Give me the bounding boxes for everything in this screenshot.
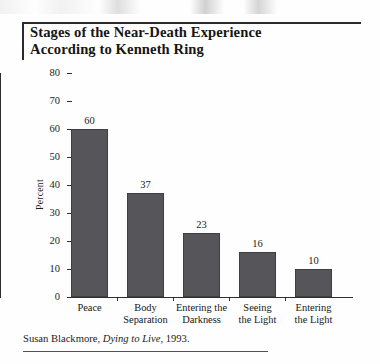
bar [127, 193, 164, 297]
bar-value-label: 10 [295, 255, 332, 266]
bar-value-label: 60 [71, 115, 108, 126]
caption-prefix: Susan Blackmore, [23, 333, 103, 344]
y-axis-label: Percent [34, 179, 45, 210]
bar [183, 233, 220, 297]
x-tick [117, 297, 118, 301]
bar-value-label: 16 [239, 238, 276, 249]
source-caption: Susan Blackmore, Dying to Live, 1993. [23, 333, 190, 344]
title-left-rule [22, 22, 24, 60]
y-axis-line [0, 73, 1, 298]
bar [71, 129, 108, 297]
caption-book-title: Dying to Live [103, 333, 161, 344]
x-axis-line [67, 297, 353, 298]
chart-title: Stages of the Near-Death Experience Acco… [30, 24, 360, 58]
plot-area: 6037231610 [67, 73, 352, 297]
bar [295, 269, 332, 297]
x-tick [173, 297, 174, 301]
y-tick-label-0: 0 [38, 291, 60, 302]
category-label-4: Entering the Light [281, 302, 347, 326]
y-tick-label-10: 10 [38, 263, 60, 274]
chart-figure: Stages of the Near-Death Experience Acco… [0, 0, 380, 364]
y-tick-0 [67, 297, 72, 298]
x-tick [285, 297, 286, 301]
caption-bottom-rule [23, 351, 268, 352]
x-tick [229, 297, 230, 301]
bar [239, 252, 276, 297]
y-tick-label-20: 20 [38, 235, 60, 246]
y-tick-label-50: 50 [38, 151, 60, 162]
scan-artifact [0, 0, 380, 14]
y-tick-label-60: 60 [38, 123, 60, 134]
caption-suffix: , 1993. [160, 333, 189, 344]
bar-value-label: 37 [127, 179, 164, 190]
bar-value-label: 23 [183, 219, 220, 230]
y-tick-label-80: 80 [38, 67, 60, 78]
y-tick-label-70: 70 [38, 95, 60, 106]
